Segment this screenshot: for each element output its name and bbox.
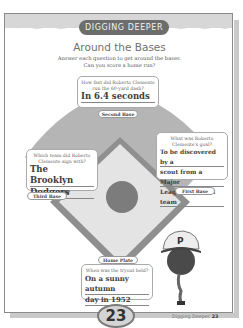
first-base-answer-line1[interactable]: To be discovered by a: [160, 147, 224, 167]
second-base-answer[interactable]: In 6.4 seconds: [81, 91, 155, 103]
page-title: Around the Bases: [5, 41, 234, 53]
first-base-card: What was Roberto Clemente's goal? To be …: [156, 132, 228, 180]
third-base-answer-line1[interactable]: The Brooklyn: [30, 164, 94, 187]
third-base-label: Third Base: [27, 192, 67, 200]
home-plate-card: When was the tryout held? On a sunny aut…: [81, 264, 153, 300]
section-label: DIGGING DEEPER: [79, 20, 169, 35]
first-base-answer-line2[interactable]: scout from a Major: [160, 167, 224, 187]
second-base-card: How fast did Roberto Clemente run the 60…: [77, 76, 159, 108]
second-base-label: Second Base: [98, 110, 138, 118]
cap-letter-icon: P: [177, 236, 184, 246]
home-plate-answer-line1[interactable]: On a sunny autumn: [85, 274, 149, 295]
worksheet-page: DIGGING DEEPER Around the Bases Answer e…: [4, 13, 233, 313]
baseball-player-illustration: P: [157, 229, 205, 307]
page-number-badge: 23: [97, 304, 135, 328]
home-plate-label: Home Plate: [98, 256, 138, 264]
page-shadow-right: [234, 20, 239, 315]
footer-page-number: 23: [212, 314, 219, 319]
instructions: Answer each question to get around the b…: [5, 55, 234, 69]
third-base-card: Which team did Roberto Clemente sign wit…: [26, 149, 98, 191]
running-footer: Digging Deeper23: [172, 314, 218, 319]
first-base-label: First Base: [175, 187, 215, 195]
